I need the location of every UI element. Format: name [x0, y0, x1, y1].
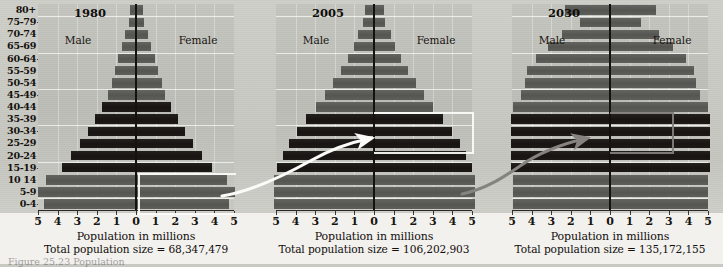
bar-female	[374, 175, 475, 185]
x-axis-tick-label: 2	[93, 215, 100, 228]
bar-male	[511, 163, 610, 173]
male-legend-label: Male	[303, 34, 330, 46]
female-legend-label: Female	[417, 34, 456, 46]
bar-female	[136, 127, 185, 137]
x-axis-tick-label: 4	[211, 215, 218, 228]
x-axis-tick-label: 4	[449, 215, 456, 228]
x-axis-tick-label: 1	[113, 215, 120, 228]
bar-male	[316, 102, 374, 112]
total-population-caption: Total population size = 106,202,903	[276, 243, 472, 255]
x-axis-tick-label: 2	[331, 215, 338, 228]
bar-female	[374, 90, 424, 100]
x-axis-tick-label: 4	[292, 215, 299, 228]
age-group-label: 70-74	[0, 28, 36, 39]
bar-male	[274, 187, 374, 197]
x-axis-tick-label: 0	[606, 215, 613, 228]
x-axis-tick-label: 5	[230, 215, 237, 228]
bar-male	[511, 127, 610, 137]
age-group-label: 30-34	[0, 125, 36, 136]
bar-female	[374, 102, 433, 112]
age-group-label: 50-54	[0, 77, 36, 88]
age-group-label: 40-44	[0, 101, 36, 112]
bar-male	[306, 114, 374, 124]
bar-female	[610, 78, 696, 88]
age-group-label: 55-59	[0, 65, 36, 76]
bar-female	[610, 66, 694, 76]
bar-female	[374, 199, 475, 209]
bar-female	[136, 42, 151, 52]
x-axis-tick-label: 5	[704, 215, 711, 228]
bar-male	[38, 187, 136, 197]
pyramid-year-title: 1980	[74, 6, 106, 20]
bar-female	[610, 5, 656, 15]
bar-male	[525, 78, 610, 88]
x-axis-tick-label: 1	[390, 215, 397, 228]
age-group-label: 0-4	[0, 198, 36, 209]
bar-female	[136, 163, 212, 173]
bar-female	[136, 5, 143, 15]
bar-male	[46, 175, 136, 185]
bar-male	[283, 151, 374, 161]
bar-female	[374, 42, 395, 52]
bar-female	[136, 90, 165, 100]
bar-male	[88, 127, 136, 137]
bar-female	[136, 54, 155, 64]
bar-male	[333, 78, 374, 88]
bar-female	[610, 54, 686, 64]
age-group-label: 25-29	[0, 137, 36, 148]
bar-female	[374, 5, 384, 15]
x-axis-caption: Population in millions	[38, 230, 234, 243]
bar-male	[536, 54, 611, 64]
bar-female	[374, 30, 391, 40]
bar-female	[610, 175, 708, 185]
x-axis-tick-label: 5	[468, 215, 475, 228]
bar-male	[80, 139, 136, 149]
x-axis-tick-label: 4	[528, 215, 535, 228]
total-population-caption: Total population size = 135,172,155	[512, 243, 708, 255]
age-group-label: 65-69	[0, 40, 36, 51]
bar-male	[118, 54, 136, 64]
bar-male	[513, 102, 610, 112]
bar-male	[562, 30, 610, 40]
x-axis-tick-label: 3	[311, 215, 318, 228]
x-axis-tick-label: 2	[567, 215, 574, 228]
bar-male	[44, 199, 136, 209]
bar-male	[122, 42, 136, 52]
x-axis-tick-label: 1	[351, 215, 358, 228]
figure-caption-partial: Figure 25.23 Population	[8, 256, 125, 267]
x-axis-tick-label: 4	[54, 215, 61, 228]
bar-female	[610, 163, 710, 173]
pyramid-year-title: 2030	[548, 6, 580, 20]
bar-female	[374, 66, 408, 76]
bar-female	[136, 114, 178, 124]
age-group-label: 20-24	[0, 150, 36, 161]
bar-female	[610, 30, 659, 40]
x-axis-tick-label: 1	[626, 215, 633, 228]
bar-female	[136, 66, 158, 76]
x-axis-caption: Population in millions	[276, 230, 472, 243]
bar-male	[348, 54, 375, 64]
bar-female	[610, 90, 700, 100]
x-axis-tick-label: 4	[685, 215, 692, 228]
bar-male	[62, 163, 137, 173]
bar-male	[527, 66, 610, 76]
age-group-label: 5-9	[0, 186, 36, 197]
x-axis-tick-label: 5	[34, 215, 41, 228]
bar-male	[521, 90, 610, 100]
bar-female	[374, 54, 401, 64]
bar-female	[374, 18, 385, 28]
population-pyramid-1980: 543210123451980MaleFemalePopulation in m…	[38, 0, 234, 264]
center-axis	[609, 4, 610, 210]
x-axis-tick-label: 3	[191, 215, 198, 228]
age-group-label: 15-19	[0, 162, 36, 173]
x-axis-tick-label: 3	[429, 215, 436, 228]
bar-female	[374, 163, 472, 173]
bar-male	[511, 114, 610, 124]
bar-female	[610, 18, 641, 28]
bar-female	[610, 187, 708, 197]
bar-male	[108, 90, 136, 100]
bar-male	[289, 139, 374, 149]
x-axis-tick-label: 3	[665, 215, 672, 228]
bar-male	[325, 90, 374, 100]
age-group-label: 10 14	[0, 174, 36, 185]
